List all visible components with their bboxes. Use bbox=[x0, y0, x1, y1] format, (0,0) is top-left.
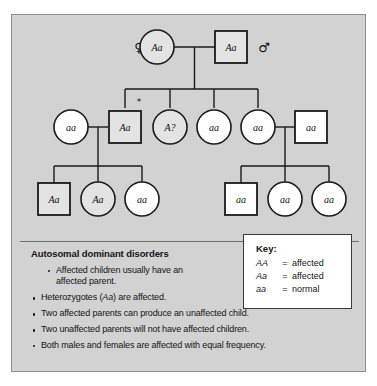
g3-right-2-genotype: aa bbox=[280, 194, 290, 205]
g2-child-2-genotype: A? bbox=[163, 122, 175, 133]
g2-child-1-genotype: Aa bbox=[118, 122, 130, 133]
pedigree-chart: ♀ Aa Aa ♂ aa * Aa A? aa aa aa A bbox=[12, 15, 365, 245]
g2-spouse-left-genotype: aa bbox=[66, 122, 76, 133]
key-meaning: affected bbox=[292, 271, 324, 281]
g3-left-2-genotype: Aa bbox=[91, 194, 103, 205]
info-bullet-2-genotype: Aa bbox=[102, 292, 113, 302]
g1-father-genotype: Aa bbox=[224, 42, 236, 53]
info-bullet-2-post: ) are affected. bbox=[113, 292, 166, 302]
info-bullet-2-pre: Heterozygotes ( bbox=[41, 292, 102, 302]
g1-mother-genotype: Aa bbox=[150, 42, 162, 53]
key-legend-box: Key: AA = affected Aa = affected aa = no… bbox=[243, 234, 352, 309]
info-bullet-3-text: Two affected parents can produce an unaf… bbox=[41, 308, 249, 318]
proband-asterisk-icon: * bbox=[137, 97, 142, 107]
info-bullet-1-line2: affected parent. bbox=[56, 276, 116, 286]
male-sex-icon: ♂ bbox=[258, 40, 270, 55]
g3-right-3-genotype: aa bbox=[324, 194, 334, 205]
g3-left-1-genotype: Aa bbox=[47, 194, 59, 205]
bullet-dot-icon bbox=[33, 345, 35, 347]
bullet-dot-icon bbox=[33, 297, 35, 299]
info-bullet-3: Two affected parents can produce an unaf… bbox=[28, 308, 353, 319]
g3-left-3-genotype: aa bbox=[137, 194, 147, 205]
key-row: aa = normal bbox=[256, 284, 324, 297]
key-equals: = bbox=[278, 271, 292, 281]
key-row: AA = affected bbox=[256, 258, 324, 271]
key-rows: AA = affected Aa = affected aa = normal bbox=[256, 258, 324, 297]
key-title: Key: bbox=[256, 243, 277, 254]
key-genotype: Aa bbox=[256, 271, 278, 281]
key-genotype: aa bbox=[256, 284, 278, 294]
key-meaning: affected bbox=[292, 258, 324, 268]
generation-2-group: aa * Aa A? aa aa aa bbox=[54, 97, 327, 144]
g2-child-4-genotype: aa bbox=[253, 122, 263, 133]
bullet-dot-icon bbox=[33, 329, 35, 331]
generation-3-group: Aa Aa aa aa aa aa bbox=[38, 182, 346, 216]
figure-panel: ♀ Aa Aa ♂ aa * Aa A? aa aa aa A bbox=[11, 14, 366, 372]
info-bullet-1-line1: Affected children usually have an bbox=[56, 265, 183, 275]
key-row: Aa = affected bbox=[256, 271, 324, 284]
g3-right-1-genotype: aa bbox=[236, 194, 246, 205]
g2-child-3-genotype: aa bbox=[209, 122, 219, 133]
key-meaning: normal bbox=[292, 284, 320, 294]
g2-spouse-right-genotype: aa bbox=[306, 122, 316, 133]
key-genotype: AA bbox=[256, 258, 278, 268]
key-equals: = bbox=[278, 284, 292, 294]
bullet-dot-icon bbox=[33, 313, 35, 315]
info-bullet-4: Two unaffected parents will not have aff… bbox=[28, 324, 353, 335]
info-bullet-5: Both males and females are affected with… bbox=[28, 340, 353, 351]
info-bullet-5-text: Both males and females are affected with… bbox=[41, 340, 266, 350]
pedigree-connectors bbox=[54, 47, 329, 183]
info-bullet-4-text: Two unaffected parents will not have aff… bbox=[41, 324, 249, 334]
key-equals: = bbox=[278, 258, 292, 268]
bullet-dot-icon bbox=[48, 270, 50, 272]
